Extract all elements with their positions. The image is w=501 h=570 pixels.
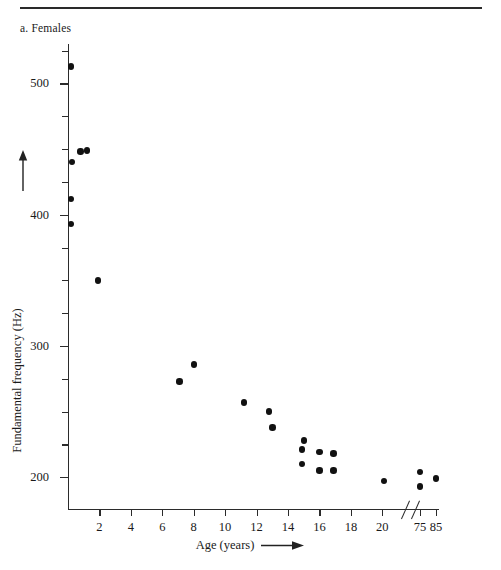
- top-divider-rule: [20, 7, 482, 9]
- x-tick-label: 8: [191, 520, 197, 535]
- x-tick: [319, 510, 320, 516]
- x-tick-label: 16: [313, 520, 326, 535]
- y-tick-label: 200: [30, 470, 49, 485]
- x-tick-label: 75: [414, 520, 427, 535]
- data-point: [68, 196, 74, 202]
- y-tick-major: 500: [60, 83, 68, 84]
- y-axis-title: Fundamental frequency (Hz): [11, 308, 24, 452]
- data-point: [316, 449, 322, 455]
- data-point: [84, 147, 90, 153]
- x-tick: [436, 510, 437, 516]
- x-tick: [257, 510, 258, 516]
- data-point: [191, 361, 197, 367]
- y-tick-minor: [62, 412, 68, 413]
- data-point: [299, 461, 305, 467]
- data-point: [433, 475, 439, 481]
- x-tick-label: 4: [128, 520, 134, 535]
- data-point: [316, 467, 322, 473]
- data-point: [95, 277, 101, 283]
- data-point: [77, 148, 83, 154]
- x-tick-label: 6: [159, 520, 165, 535]
- x-tick: [99, 510, 100, 516]
- y-axis-line: [68, 44, 69, 510]
- data-point: [330, 450, 336, 456]
- x-tick-label: 18: [345, 520, 358, 535]
- x-tick-label: 2: [96, 520, 102, 535]
- x-tick-label: 10: [219, 520, 232, 535]
- x-tick: [420, 510, 421, 516]
- y-tick-label: 300: [30, 338, 49, 353]
- data-point: [299, 446, 305, 452]
- axis-break-icon: [411, 501, 420, 520]
- x-tick: [162, 510, 163, 516]
- arrow-up-icon: [18, 150, 29, 192]
- y-tick-minor: [62, 51, 68, 52]
- data-point: [330, 467, 336, 473]
- y-tick-major: 400: [60, 215, 68, 216]
- y-tick-label: 400: [30, 207, 49, 222]
- y-tick-minor: [62, 116, 68, 117]
- y-tick-minor: [62, 149, 68, 150]
- data-point: [301, 437, 307, 443]
- x-tick-label: 14: [282, 520, 295, 535]
- data-point: [269, 424, 275, 430]
- data-point: [417, 483, 423, 489]
- data-point: [68, 221, 74, 227]
- x-axis-title-group: Age (years): [0, 538, 501, 553]
- x-tick: [382, 510, 383, 516]
- x-tick-label: 20: [376, 520, 389, 535]
- data-point: [417, 469, 423, 475]
- figure-panel: a. Females Fundamental frequency (Hz) 20…: [0, 0, 501, 570]
- data-point: [176, 378, 182, 384]
- axis-break-icon: [401, 501, 410, 520]
- x-tick-label: 85: [430, 520, 443, 535]
- plot-area: 200300400500 24681012141618207585: [68, 44, 439, 510]
- y-tick-label: 500: [30, 76, 49, 91]
- y-tick-minor: [62, 313, 68, 314]
- y-tick-minor: [62, 248, 68, 249]
- x-tick: [225, 510, 226, 516]
- data-point: [69, 159, 75, 165]
- x-tick: [194, 510, 195, 516]
- y-tick-minor: [62, 182, 68, 183]
- arrow-right-icon: [261, 540, 305, 551]
- x-tick: [288, 510, 289, 516]
- y-tick-major: 200: [60, 477, 68, 478]
- y-tick-minor: [62, 444, 68, 445]
- x-tick: [131, 510, 132, 516]
- x-tick-label: 12: [250, 520, 263, 535]
- data-point: [68, 63, 74, 69]
- panel-label: a. Females: [20, 22, 71, 34]
- data-point: [381, 478, 387, 484]
- data-point: [266, 408, 272, 414]
- x-axis-title: Age (years): [196, 538, 255, 553]
- data-point: [241, 399, 247, 405]
- y-tick-minor: [62, 379, 68, 380]
- y-tick-minor: [62, 280, 68, 281]
- y-tick-major: 300: [60, 346, 68, 347]
- x-tick: [351, 510, 352, 516]
